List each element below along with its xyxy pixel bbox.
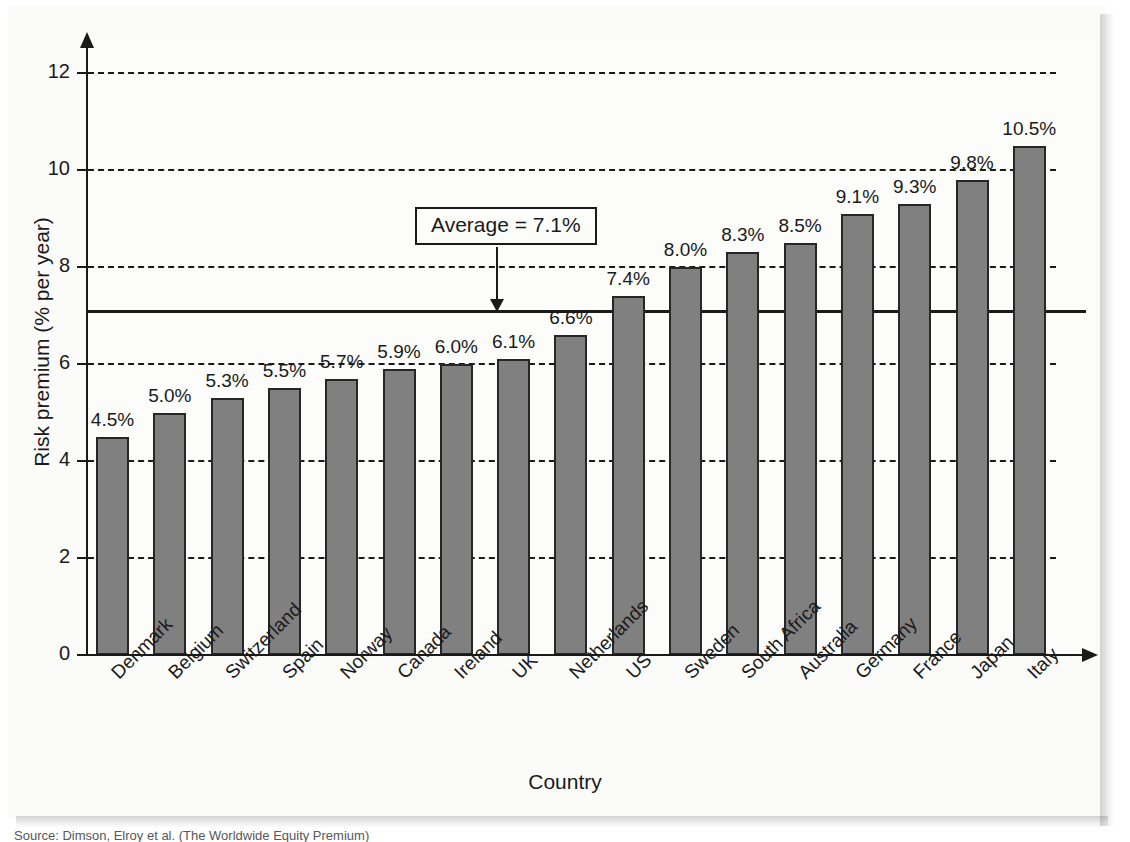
bar xyxy=(669,267,702,655)
bar-value-label: 8.0% xyxy=(654,239,718,261)
bar xyxy=(325,379,358,655)
gridline xyxy=(88,72,1056,74)
y-tick-label: 10 xyxy=(30,157,70,180)
bar-value-label: 6.0% xyxy=(424,336,488,358)
bar-value-label: 5.7% xyxy=(310,351,374,373)
bar-value-label: 5.0% xyxy=(138,385,202,407)
bar xyxy=(96,437,129,655)
x-axis-arrow-icon xyxy=(1082,648,1098,662)
bar xyxy=(1013,146,1046,655)
bar-value-label: 7.4% xyxy=(596,268,660,290)
bar xyxy=(956,180,989,655)
bar-value-label: 4.5% xyxy=(81,409,145,431)
bar-chart: 024681012 4.5%5.0%5.3%5.5%5.7%5.9%6.0%6.… xyxy=(0,0,1130,842)
y-tick-label: 2 xyxy=(30,545,70,568)
bar-value-label: 6.6% xyxy=(539,307,603,329)
bar xyxy=(383,369,416,655)
bar-value-label: 10.5% xyxy=(997,118,1061,140)
y-tick-label: 0 xyxy=(30,642,70,665)
bar xyxy=(898,204,931,655)
bar-value-label: 8.3% xyxy=(711,224,775,246)
bar-value-label: 6.1% xyxy=(482,331,546,353)
bar xyxy=(841,214,874,655)
bar-value-label: 8.5% xyxy=(768,215,832,237)
x-axis-title: Country xyxy=(0,770,1130,794)
bar-value-label: 5.9% xyxy=(367,341,431,363)
bar-value-label: 5.5% xyxy=(252,360,316,382)
bar-value-label: 9.8% xyxy=(940,152,1004,174)
bar xyxy=(726,252,759,655)
average-annotation-box: Average = 7.1% xyxy=(415,207,597,245)
gridline xyxy=(88,169,1056,171)
bar xyxy=(497,359,530,655)
bar-value-label: 5.3% xyxy=(195,370,259,392)
y-axis-arrow-icon xyxy=(80,32,94,48)
y-axis-title: Risk premium (% per year) xyxy=(30,182,54,502)
y-tick-label: 12 xyxy=(30,60,70,83)
x-axis-line xyxy=(86,654,1086,656)
bar xyxy=(211,398,244,655)
average-annotation-arrow-icon xyxy=(490,299,504,312)
bar-value-label: 9.3% xyxy=(883,176,947,198)
bar xyxy=(784,243,817,655)
bar xyxy=(554,335,587,655)
y-axis-line xyxy=(86,46,88,656)
average-annotation-stem xyxy=(496,247,498,302)
bar xyxy=(440,364,473,655)
figure-page: 024681012 4.5%5.0%5.3%5.5%5.7%5.9%6.0%6.… xyxy=(0,0,1130,842)
source-caption: Source: Dimson, Elroy et al. (The Worldw… xyxy=(14,828,369,842)
bar-value-label: 9.1% xyxy=(825,186,889,208)
